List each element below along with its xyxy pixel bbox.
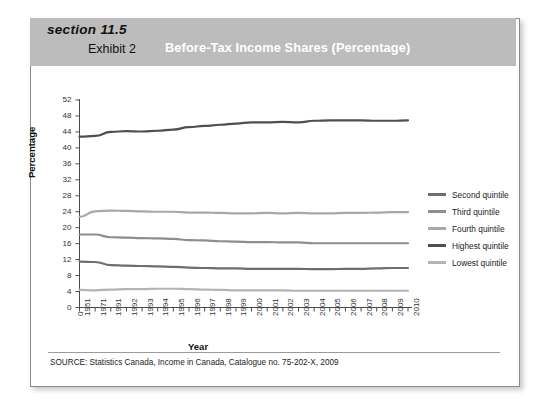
legend-item[interactable]: Fourth quintile <box>428 220 509 237</box>
legend-swatch <box>428 210 446 213</box>
legend-label: Second quintile <box>452 190 509 200</box>
legend-swatch <box>428 244 446 247</box>
legend-label: Third quintile <box>452 207 500 217</box>
legend-item[interactable]: Highest quintile <box>428 237 509 254</box>
legend-item[interactable]: Lowest quintile <box>428 254 509 271</box>
chart-legend: Second quintileThird quintileFourth quin… <box>428 186 509 271</box>
source-divider <box>48 352 500 353</box>
section-label: section 11.5 <box>47 22 127 37</box>
legend-swatch <box>428 227 446 230</box>
legend-item[interactable]: Third quintile <box>428 203 509 220</box>
exhibit-header-band: section 11.5 Exhibit 2 Before-Tax Income… <box>30 18 516 66</box>
exhibit-page: section 11.5 Exhibit 2 Before-Tax Income… <box>0 0 555 414</box>
source-note: SOURCE: Statistics Canada, Income in Can… <box>50 358 339 367</box>
legend-swatch <box>428 193 446 196</box>
legend-label: Fourth quintile <box>452 224 505 234</box>
legend-label: Highest quintile <box>452 241 509 251</box>
legend-swatch <box>428 261 446 264</box>
legend-label: Lowest quintile <box>452 258 507 268</box>
exhibit-label: Exhibit 2 <box>88 42 136 56</box>
exhibit-title: Before-Tax Income Shares (Percentage) <box>165 40 410 55</box>
legend-item[interactable]: Second quintile <box>428 186 509 203</box>
